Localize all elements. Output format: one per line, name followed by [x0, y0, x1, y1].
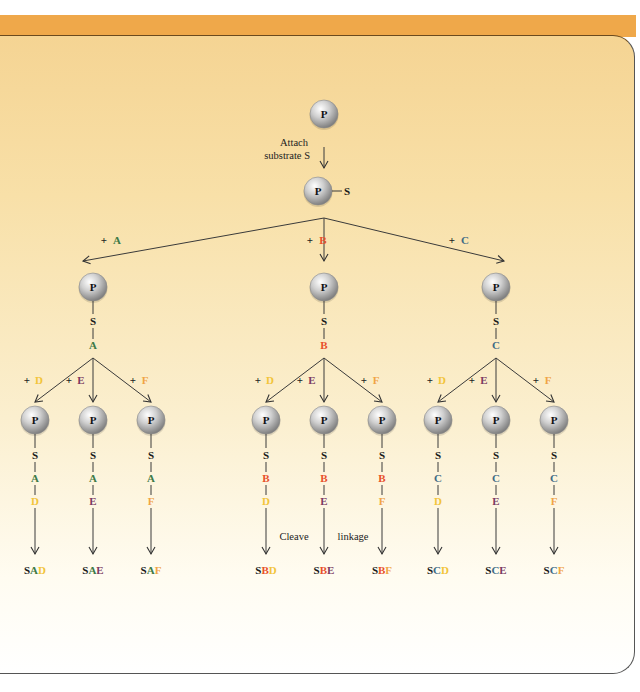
bead-label: P [493, 281, 500, 293]
bead-label: P [435, 414, 442, 426]
chain-s-label: S [90, 449, 96, 461]
plus-sign: + [307, 234, 313, 246]
product-label: SBD [255, 564, 276, 576]
combinatorial-synthesis-diagram: PAttachsubstrate SPS+A+B+CPSA+DPSADSAD+E… [0, 0, 640, 692]
bead-label: P [32, 414, 39, 426]
linkage-label: linkage [338, 531, 369, 542]
added-unit-label: D [266, 374, 274, 386]
added-unit-label: E [308, 374, 315, 386]
plus-sign: + [427, 374, 433, 386]
product-label: SAD [24, 564, 46, 576]
leaf-bead-icon: P [482, 406, 511, 436]
chain-s-label: S [148, 449, 154, 461]
bead-label: P [321, 281, 328, 293]
leaf-bead-icon: P [368, 406, 397, 436]
intermediate-bead-icon: P [482, 273, 511, 303]
root-bead-icon: P [310, 100, 339, 130]
added-unit-label: E [480, 374, 487, 386]
plus-sign: + [255, 374, 261, 386]
attach-label: Attach [280, 137, 309, 148]
chain-unit-label: C [492, 472, 500, 484]
plus-sign: + [66, 374, 72, 386]
attach-label: substrate S [264, 150, 310, 161]
leaf-bead-icon: P [310, 406, 339, 436]
bead-label: P [379, 414, 386, 426]
leaf-bead-icon: P [424, 406, 453, 436]
chain-s-label: S [551, 449, 557, 461]
chain-s-label: S [435, 449, 441, 461]
bead-with-substrate-icon: P [304, 177, 333, 207]
plus-sign: + [449, 234, 455, 246]
chain-unit-label: D [434, 495, 442, 507]
added-unit-label: F [373, 374, 380, 386]
plus-sign: + [24, 374, 30, 386]
plus-sign: + [533, 374, 539, 386]
chain-s-label: S [263, 449, 269, 461]
chain-s-label: S [493, 449, 499, 461]
chain-unit-label: F [379, 495, 386, 507]
bead-label: P [148, 414, 155, 426]
product-label: SCE [485, 564, 506, 576]
chain-unit-label: B [262, 472, 270, 484]
chain-s-label: S [32, 449, 38, 461]
product-label: SBE [314, 564, 335, 576]
chain-unit-label: C [492, 339, 500, 351]
plus-sign: + [361, 374, 367, 386]
product-label: SBF [372, 564, 392, 576]
bead-label: P [551, 414, 558, 426]
intermediate-bead-icon: P [310, 273, 339, 303]
bead-label: P [321, 108, 328, 120]
chain-s-label: S [379, 449, 385, 461]
chain-unit-label: E [320, 495, 327, 507]
bead-label: P [263, 414, 270, 426]
plus-sign: + [469, 374, 475, 386]
leaf-bead-icon: P [540, 406, 569, 436]
chain-unit-label: A [89, 472, 97, 484]
chain-unit-label: F [148, 495, 155, 507]
bead-label: P [90, 281, 97, 293]
intermediate-bead-icon: P [79, 273, 108, 303]
plus-sign: + [130, 374, 136, 386]
chain-s-label: S [90, 315, 96, 327]
leaf-bead-icon: P [252, 406, 281, 436]
chain-unit-label: E [492, 495, 499, 507]
leaf-bead-icon: P [79, 406, 108, 436]
added-unit-label: C [461, 234, 469, 246]
leaf-bead-icon: P [137, 406, 166, 436]
bead-label: P [315, 185, 322, 197]
added-unit-label: E [77, 374, 84, 386]
chain-unit-label: A [31, 472, 39, 484]
chain-unit-label: B [320, 339, 328, 351]
added-unit-label: B [319, 234, 327, 246]
cleave-label: Cleave [279, 531, 308, 542]
added-unit-label: F [142, 374, 149, 386]
product-label: SCF [544, 564, 565, 576]
chain-unit-label: F [551, 495, 558, 507]
bead-label: P [493, 414, 500, 426]
added-unit-label: D [438, 374, 446, 386]
leaf-bead-icon: P [21, 406, 50, 436]
chain-unit-label: A [147, 472, 155, 484]
plus-sign: + [101, 234, 107, 246]
added-unit-label: D [35, 374, 43, 386]
chain-unit-label: D [31, 495, 39, 507]
substrate-label: S [344, 185, 350, 197]
bead-label: P [321, 414, 328, 426]
chain-unit-label: C [550, 472, 558, 484]
chain-s-label: S [321, 449, 327, 461]
chain-unit-label: C [434, 472, 442, 484]
chain-s-label: S [321, 315, 327, 327]
chain-unit-label: A [89, 339, 97, 351]
chain-unit-label: B [378, 472, 386, 484]
chain-unit-label: B [320, 472, 328, 484]
bead-label: P [90, 414, 97, 426]
added-unit-label: F [545, 374, 552, 386]
plus-sign: + [297, 374, 303, 386]
chain-s-label: S [493, 315, 499, 327]
added-unit-label: A [113, 234, 121, 246]
branch-arrow [324, 218, 504, 261]
product-label: SAF [141, 564, 162, 576]
product-label: SCD [427, 564, 449, 576]
product-label: SAE [82, 564, 103, 576]
chain-unit-label: E [89, 495, 96, 507]
